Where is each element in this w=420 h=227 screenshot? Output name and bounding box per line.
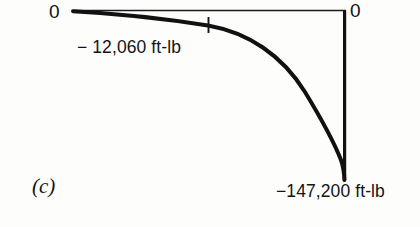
- peak-value-label: − 12,060 ft-lb: [77, 39, 181, 57]
- zero-left-label: 0: [49, 2, 60, 21]
- part-label: (c): [32, 176, 55, 197]
- max-value-label: −147,200 ft-lb: [276, 183, 385, 201]
- zero-right-label: 0: [350, 1, 361, 20]
- moment-diagram-figure: 0 0 − 12,060 ft-lb −147,200 ft-lb (c): [0, 0, 420, 227]
